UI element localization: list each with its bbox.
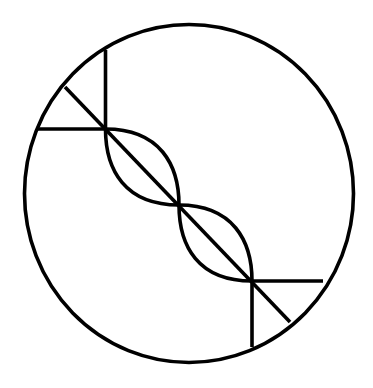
helix-circle-symbol (0, 0, 373, 388)
outer-circle (25, 25, 354, 363)
diagram-canvas (0, 0, 373, 388)
